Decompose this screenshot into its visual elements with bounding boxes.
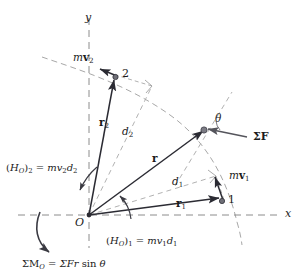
h1-mass-symbol: m [147, 235, 156, 246]
particle-marker [201, 127, 207, 133]
distance-d2-label: d2 [122, 126, 133, 138]
vector-r2 [89, 80, 114, 215]
h2-mass-symbol: m [47, 162, 56, 173]
force-line-of-action-guide [175, 92, 232, 186]
equation-h1: (HO)1 = mv1d1 [106, 236, 177, 248]
y-axis-label: y [85, 12, 91, 23]
vector-mv2-label: mv2 [73, 52, 94, 64]
r1-subscript: 1 [182, 202, 187, 211]
vector-sum-f [208, 129, 247, 137]
angular-momentum-diagram: y x O 2 1 mv2 mv1 r2 r r1 d2 d1 θ ΣF (HO… [0, 0, 298, 279]
point-2-marker [113, 74, 118, 79]
equation-moment: ΣMO = ΣFr sin θ [22, 259, 106, 271]
vector-r1-label: r1 [176, 198, 186, 210]
d1-symbol: d [172, 175, 179, 187]
point-1-marker [219, 198, 224, 203]
right-angle-mark-2 [145, 80, 152, 93]
mv1-subscript: 1 [245, 174, 250, 183]
h2-h-symbol: H [10, 162, 19, 173]
sum-force-label: ΣF [253, 131, 269, 142]
mv2-subscript: 2 [89, 56, 94, 65]
h1-h-symbol: H [110, 235, 119, 246]
distance-d1-label: d1 [172, 176, 183, 188]
arc-arrow-h1 [120, 196, 131, 219]
origin-label: O [75, 217, 84, 228]
h2-distance-subscript: 2 [73, 167, 77, 175]
r2-subscript: 2 [105, 121, 110, 130]
h2-index: 2 [28, 167, 32, 175]
r-symbol: r [152, 152, 158, 164]
d1-guide-line [89, 176, 216, 215]
moment-sigma-fr: ΣFr [60, 258, 79, 269]
arc-arrow-moment [37, 212, 49, 252]
h1-distance-subscript: 1 [173, 240, 177, 248]
moment-theta: θ [100, 258, 106, 269]
mv1-mass-symbol: m [229, 169, 239, 181]
right-angle-mark-1 [208, 170, 216, 183]
equation-h2: (HO)2 = mv2d2 [6, 163, 77, 175]
h2-equals: = [36, 162, 44, 173]
x-axis-label: x [285, 208, 291, 219]
vector-r2-label: r2 [99, 117, 109, 129]
d2-subscript: 2 [129, 130, 134, 139]
moment-equals: = [48, 258, 56, 269]
mv2-mass-symbol: m [73, 51, 83, 63]
vector-mv1 [215, 177, 223, 200]
point-2-label: 2 [122, 68, 129, 79]
vector-r-label: r [152, 153, 158, 164]
h1-equals: = [136, 235, 144, 246]
h1-index: 1 [128, 240, 132, 248]
moment-sin: sin [82, 258, 97, 269]
moment-subscript: O [39, 263, 45, 271]
vector-mv1-label: mv1 [229, 170, 250, 182]
d2-symbol: d [122, 125, 129, 137]
trajectory-path [42, 57, 242, 245]
origin-marker [87, 213, 92, 218]
theta-label: θ [215, 113, 221, 124]
point-1-label: 1 [228, 194, 235, 205]
moment-sigma-m: ΣM [22, 258, 39, 269]
d1-subscript: 1 [179, 180, 184, 189]
d2-guide-line [89, 86, 152, 215]
